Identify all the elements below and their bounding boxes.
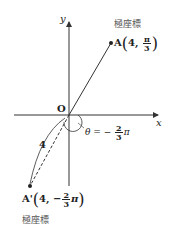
point-a-prime-label: A'(4, −23π): [22, 191, 85, 208]
distance-arc: [30, 118, 65, 184]
angle-label: θ = − 23π: [85, 124, 130, 141]
point-a-prime-caption: 極座標: [22, 216, 49, 225]
origin-label: O: [57, 104, 66, 114]
point-a-dot: [109, 41, 113, 45]
y-axis-label: y: [60, 14, 66, 24]
x-axis-label: x: [156, 118, 162, 128]
angle-arc: [64, 115, 82, 131]
point-a-caption: 極座標: [114, 20, 141, 29]
point-a-prime-dot: [28, 184, 32, 188]
distance-label: 4: [39, 140, 46, 150]
point-a-label: A(4, π3): [114, 35, 158, 52]
segment-oa-prime: [30, 115, 69, 186]
segment-oa: [69, 43, 111, 115]
